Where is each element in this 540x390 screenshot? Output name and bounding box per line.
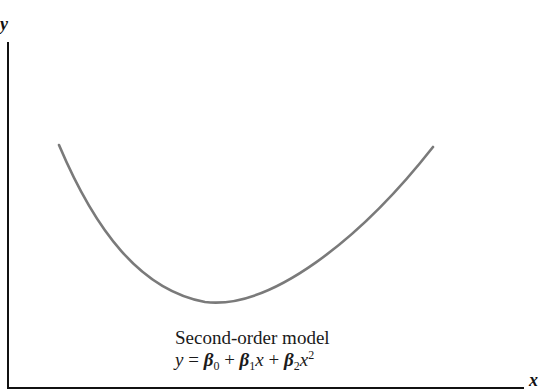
eq-beta0: β — [204, 349, 214, 370]
eq-x2: x — [300, 349, 308, 370]
eq-plus2: + — [269, 349, 280, 370]
caption-title: Second-order model — [175, 327, 330, 349]
quadratic-curve — [59, 145, 433, 303]
eq-y: y — [175, 349, 183, 370]
x-axis-label: x — [528, 370, 538, 390]
eq-beta1: β — [240, 349, 250, 370]
eq-equals: = — [188, 349, 199, 370]
model-equation: y = β0 + β1x + β2x2 — [175, 349, 330, 371]
y-axis-label: y — [0, 14, 9, 34]
eq-x1: x — [255, 349, 263, 370]
eq-beta2: β — [284, 349, 294, 370]
eq-plus1: + — [224, 349, 235, 370]
eq-sub0: 0 — [213, 359, 219, 373]
eq-sup2: 2 — [308, 348, 314, 362]
model-caption: Second-order model y = β0 + β1x + β2x2 — [175, 327, 330, 371]
